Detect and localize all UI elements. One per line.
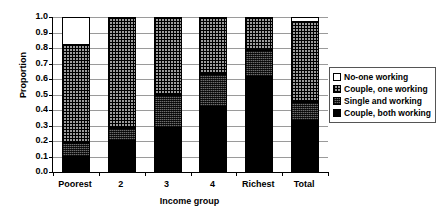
gridline: [53, 157, 328, 158]
y-tickmark: [49, 95, 53, 96]
bar-segment: [245, 17, 273, 50]
bar-segment: [62, 17, 90, 45]
bar-segment: [291, 121, 319, 172]
bar-segment: [62, 45, 90, 143]
y-tick-label: 0.3: [22, 120, 48, 131]
y-tickmark: [49, 141, 53, 142]
x-tickmark: [282, 172, 283, 176]
y-tickmark: [49, 110, 53, 111]
gridline: [53, 48, 328, 49]
y-tickmark: [49, 33, 53, 34]
bar-total[interactable]: [291, 17, 319, 172]
x-tickmark: [53, 172, 54, 176]
bar-segment: [291, 102, 319, 121]
y-tick-label: 0.8: [22, 42, 48, 53]
gridline: [53, 33, 328, 34]
chart-legend: No-one workingCouple, one workingSingle …: [329, 67, 436, 123]
bar-segment: [245, 50, 273, 78]
bar-richest[interactable]: [245, 17, 273, 172]
y-tick-label: 0.2: [22, 135, 48, 146]
legend-label: Single and working: [344, 96, 422, 106]
plot-area: [52, 17, 328, 173]
bar-segment: [108, 17, 136, 128]
gridline: [53, 64, 328, 65]
legend-swatch-icon: [333, 85, 341, 93]
x-axis-title: Income group: [52, 196, 327, 206]
legend-item: Couple, one working: [333, 83, 431, 95]
x-axis-tick-labels: Poorest234RichestTotal: [52, 178, 327, 191]
gridline: [53, 79, 328, 80]
legend-item: Couple, both working: [333, 107, 431, 119]
legend-label: Couple, both working: [344, 108, 431, 118]
bar-poorest[interactable]: [62, 17, 90, 172]
x-tick-label: Total: [272, 178, 336, 190]
legend-swatch-icon: [333, 97, 341, 105]
bar-segment: [199, 74, 227, 107]
bar-segment: [154, 17, 182, 95]
gridline: [53, 95, 328, 96]
y-tickmark: [49, 17, 53, 18]
x-tickmark: [191, 172, 192, 176]
y-tick-label: 0.0: [22, 166, 48, 177]
x-tickmark: [328, 172, 329, 176]
y-tickmark: [49, 126, 53, 127]
y-tick-label: 1.0: [22, 11, 48, 22]
gridline: [53, 126, 328, 127]
bar-segment: [291, 17, 319, 22]
gridline: [53, 17, 328, 18]
y-tickmark: [49, 48, 53, 49]
bar-segment: [62, 157, 90, 173]
legend-label: Couple, one working: [344, 84, 428, 94]
legend-swatch-icon: [333, 73, 341, 81]
y-tick-label: 0.1: [22, 151, 48, 162]
x-tickmark: [99, 172, 100, 176]
bar-segment: [245, 77, 273, 172]
y-tick-label: 0.4: [22, 104, 48, 115]
x-tickmark: [145, 172, 146, 176]
gridline: [53, 141, 328, 142]
bar-segment: [154, 95, 182, 128]
y-tickmark: [49, 64, 53, 65]
bar-segment: [199, 107, 227, 172]
bar-segment: [154, 128, 182, 172]
y-tickmark: [49, 157, 53, 158]
bar-segment: [291, 22, 319, 103]
bar-segment: [108, 141, 136, 172]
y-axis-tick-labels: 1.00.90.80.70.60.50.40.30.20.10.0: [22, 11, 48, 173]
legend-item: No-one working: [333, 71, 431, 83]
legend-label: No-one working: [344, 72, 408, 82]
bar-4[interactable]: [199, 17, 227, 172]
stacked-bar-chart: Proportion 1.00.90.80.70.60.50.40.30.20.…: [0, 0, 442, 215]
bar-3[interactable]: [154, 17, 182, 172]
y-tick-label: 0.5: [22, 89, 48, 100]
y-tick-label: 0.7: [22, 58, 48, 69]
bar-2[interactable]: [108, 17, 136, 172]
x-tickmark: [236, 172, 237, 176]
bar-segment: [62, 143, 90, 157]
bar-segment: [199, 17, 227, 74]
y-tickmark: [49, 79, 53, 80]
y-tick-label: 0.6: [22, 73, 48, 84]
legend-swatch-icon: [333, 109, 341, 117]
bar-segment: [108, 128, 136, 141]
legend-item: Single and working: [333, 95, 431, 107]
y-tick-label: 0.9: [22, 27, 48, 38]
gridline: [53, 110, 328, 111]
